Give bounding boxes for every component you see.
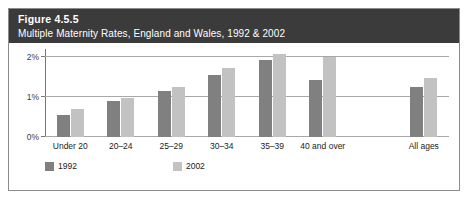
figure-number: Figure 4.5.5: [18, 13, 459, 26]
bar-group: [96, 49, 147, 137]
x-axis-label: 40 and over: [298, 141, 349, 151]
legend-label-2002: 2002: [186, 161, 205, 171]
bar-group: [298, 49, 349, 137]
bar-2002: [323, 57, 336, 137]
legend-item-2002: 2002: [173, 161, 205, 171]
x-axis-label: 30–34: [197, 141, 248, 151]
x-axis-label-spacer: [348, 141, 399, 151]
legend-swatch-icon-1992: [45, 162, 54, 171]
x-axis-label: 20–24: [96, 141, 147, 151]
bar-2002: [222, 68, 235, 137]
bar-1992: [309, 80, 322, 137]
x-axis-labels: Under 2020–2425–2930–3435–3940 and overA…: [45, 141, 449, 151]
y-axis-tick-label: 0%: [27, 132, 39, 142]
figure-container: Figure 4.5.5 Multiple Maternity Rates, E…: [8, 8, 460, 191]
y-axis-tick-label: 2%: [27, 52, 39, 62]
x-axis-label: All ages: [399, 141, 450, 151]
chart-plot-area: 0%1%2% Under 2020–2425–2930–3435–3940 an…: [9, 43, 459, 190]
bar-group: [197, 49, 248, 137]
bar-group: [45, 49, 96, 137]
bar-group: [146, 49, 197, 137]
bar-series-layer: [45, 49, 449, 137]
legend-item-1992: 1992: [45, 161, 77, 171]
y-axis-tick-label: 1%: [27, 92, 39, 102]
bar-2002: [121, 98, 134, 137]
bar-1992: [107, 101, 120, 137]
bar-1992: [208, 75, 221, 137]
bar-1992: [259, 60, 272, 137]
x-axis-label: 25–29: [146, 141, 197, 151]
bar-group-spacer: [348, 49, 399, 137]
bar-1992: [57, 115, 70, 137]
bar-1992: [410, 87, 423, 137]
bar-2002: [71, 109, 84, 137]
legend-label-1992: 1992: [58, 161, 77, 171]
bar-2002: [273, 54, 286, 137]
bar-group: [247, 49, 298, 137]
bar-1992: [158, 91, 171, 137]
bar-2002: [424, 78, 437, 137]
figure-header: Figure 4.5.5 Multiple Maternity Rates, E…: [9, 9, 459, 43]
chart-legend: 1992 2002: [45, 161, 205, 171]
x-axis-label: Under 20: [45, 141, 96, 151]
figure-title: Multiple Maternity Rates, England and Wa…: [18, 27, 459, 40]
legend-swatch-icon-2002: [173, 162, 182, 171]
bar-2002: [172, 87, 185, 137]
x-axis-label: 35–39: [247, 141, 298, 151]
bar-group: [399, 49, 450, 137]
